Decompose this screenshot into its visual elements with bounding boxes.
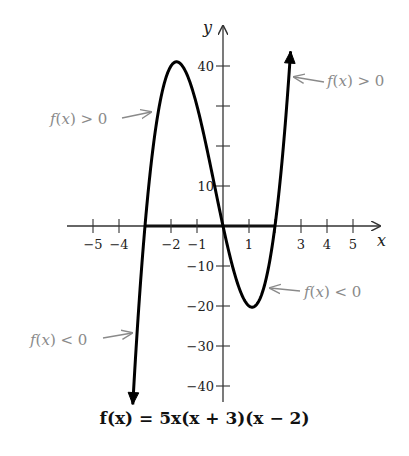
y-tick-label: −20 [187, 299, 214, 314]
annotation-label: f(x) > 0 [326, 72, 384, 90]
x-tick-label: 4 [323, 237, 331, 252]
curve-arrow-up-icon [285, 51, 296, 63]
x-axis-label: x [377, 231, 386, 250]
x-tick-label: 1 [245, 237, 253, 252]
y-tick-label: −40 [187, 379, 214, 394]
annotation-arrow-icon [122, 112, 151, 118]
x-tick-label: −4 [109, 237, 128, 252]
annotation-label: f(x) > 0 [49, 110, 107, 128]
x-tick-label: −1 [187, 237, 206, 252]
y-tick-label: −30 [187, 339, 214, 354]
x-tick-label: 3 [297, 237, 305, 252]
annotation-arrow-icon [103, 333, 132, 338]
y-tick-label: 10 [197, 179, 214, 194]
annotation-arrow-icon [294, 77, 324, 82]
y-axis-label: y [202, 18, 213, 37]
plot-area: xy −5−4−2−113454010−10−20−30−40 f(x) > 0… [0, 0, 409, 456]
function-caption: f(x) = 5x(x + 3)(x − 2) [0, 408, 409, 428]
x-tick-label: −5 [83, 237, 102, 252]
y-tick-label: −10 [187, 259, 214, 274]
y-tick-label: 40 [197, 59, 214, 74]
annotation-label: f(x) < 0 [29, 331, 87, 349]
x-tick-label: −2 [161, 237, 180, 252]
annotation-arrow-icon [270, 288, 300, 291]
annotation-label: f(x) < 0 [303, 283, 361, 301]
curve-arrow-down-icon [128, 392, 139, 404]
chart-figure: xy −5−4−2−113454010−10−20−30−40 f(x) > 0… [0, 0, 409, 456]
x-tick-label: 5 [349, 237, 357, 252]
